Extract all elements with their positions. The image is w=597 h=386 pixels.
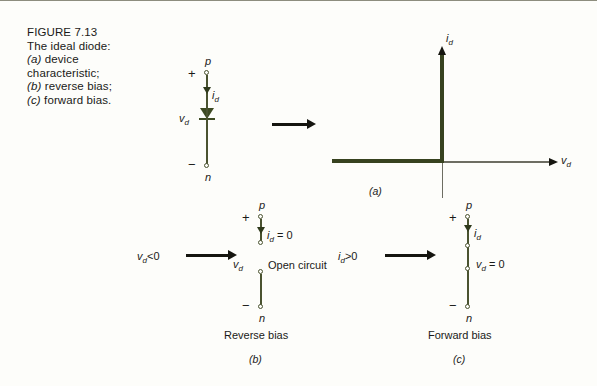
panel-b-state-note: Open circuit	[268, 259, 327, 271]
caption-text-c: forward bias.	[41, 94, 112, 106]
caption-line-a-cont: characteristic;	[27, 67, 157, 81]
panel-c-letter: (c)	[453, 353, 465, 365]
panel-b-open-node-upper	[258, 240, 263, 245]
characteristic-reverse-segment	[332, 159, 444, 163]
panel-c-n-terminal-label: n	[466, 313, 472, 324]
panel-c-bottom-node	[465, 304, 470, 309]
panel-c-plus-sign: +	[449, 211, 457, 224]
panel-c-bias-name: Forward bias	[428, 329, 492, 341]
panel-a-letter: (a)	[369, 185, 382, 197]
diode-minus-sign: −	[188, 158, 196, 171]
x-axis-positive-thin	[441, 161, 551, 163]
caption-marker-b: (b)	[27, 80, 41, 92]
diode-p-terminal-label: p	[205, 56, 211, 67]
panel-b-current-label: id = 0	[267, 230, 293, 244]
panel-b-condition: vd<0	[137, 250, 160, 265]
x-axis-arrowhead	[549, 158, 558, 166]
diode-voltage-label: vd	[179, 113, 189, 127]
caption-marker-a: (a)	[27, 53, 41, 65]
arrow-to-reverse-bias-model	[186, 250, 238, 261]
panel-c-voltage-label: vd = 0	[476, 259, 505, 273]
y-axis-label: id	[446, 33, 453, 47]
panel-c-p-terminal-label: p	[466, 200, 472, 211]
panel-b-wire-lower	[260, 274, 262, 305]
y-axis-arrowhead	[438, 46, 446, 55]
panel-c-node-upper	[465, 243, 470, 248]
panel-c-current-label: id	[474, 228, 481, 242]
y-axis-negative-thin	[442, 161, 444, 198]
panel-b-current-arrow	[257, 227, 265, 234]
caption-line-c: (c) forward bias.	[27, 94, 157, 108]
panel-c-condition: id>0	[338, 250, 357, 265]
diode-n-terminal-label: n	[205, 172, 211, 183]
diode-bottom-node	[204, 163, 209, 168]
caption-line-title: The ideal diode:	[27, 40, 157, 54]
x-axis-label: vd	[561, 155, 571, 169]
panel-b-bias-name: Reverse bias	[224, 329, 288, 341]
diode-current-arrow	[203, 87, 211, 94]
caption-line-b: (b) reverse bias;	[27, 80, 157, 94]
panel-a-characteristic-chart: id vd	[300, 31, 560, 191]
figure-page: FIGURE 7.13 The ideal diode: (a) device …	[0, 0, 597, 386]
caption-text-a: device	[41, 53, 78, 65]
caption-line-figure-number: FIGURE 7.13	[27, 26, 157, 40]
panel-b-minus-sign: −	[242, 299, 250, 312]
caption-text-b: reverse bias;	[41, 80, 112, 92]
panel-c-node-lower	[465, 266, 470, 271]
panel-b-letter: (b)	[249, 353, 262, 365]
diode-current-label: id	[212, 90, 219, 104]
panel-b-plus-sign: +	[242, 211, 250, 224]
panel-c-minus-sign: −	[449, 299, 457, 312]
panel-b-n-terminal-label: n	[259, 313, 265, 324]
figure-caption: FIGURE 7.13 The ideal diode: (a) device …	[27, 26, 157, 108]
panel-b-p-terminal-label: p	[259, 200, 265, 211]
panel-c-current-arrow	[464, 225, 472, 232]
caption-marker-c: (c)	[27, 94, 41, 106]
characteristic-forward-segment	[440, 55, 444, 163]
diode-wire-bottom	[206, 101, 208, 165]
diode-plus-sign: +	[188, 67, 196, 80]
panel-b-bottom-node	[258, 304, 263, 309]
panel-b-voltage-label: vd	[233, 259, 243, 273]
caption-line-a: (a) device	[27, 53, 157, 67]
arrow-to-forward-bias-model	[385, 250, 437, 261]
